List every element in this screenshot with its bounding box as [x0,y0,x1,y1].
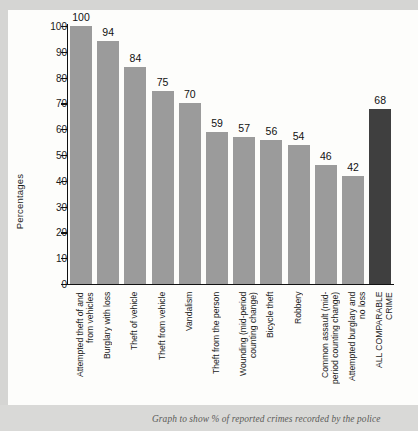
y-axis-line [67,24,68,285]
bar-value-label: 68 [374,94,386,106]
bar-value-label: 100 [72,11,90,23]
bar-value-label: 56 [266,125,278,137]
chart-page: Percentages 1009080706050403020100 10094… [0,0,418,431]
bar-value-label: 46 [320,150,332,162]
bar-column[interactable]: 42 [342,176,364,284]
x-axis-category-label: Burglary with loss [102,292,112,400]
bar-column[interactable]: 59 [206,132,228,284]
bar-column[interactable]: 68 [369,109,391,284]
bar-column[interactable]: 57 [233,137,255,284]
bar-column[interactable]: 84 [124,67,146,284]
bar-value-label: 75 [157,76,169,88]
x-axis-category-label: Bicycle theft [265,292,275,400]
bar-column[interactable]: 75 [152,91,174,285]
x-axis-category-label: Wounding (mid-period counting change) [238,292,258,400]
bar[interactable] [179,103,201,284]
x-axis-category-label: Common assault (mid- period counting cha… [320,292,340,400]
bar-chart: Percentages 1009080706050403020100 10094… [0,0,418,431]
bar-value-label: 94 [102,26,114,38]
bar[interactable] [288,145,310,284]
bar-value-label: 54 [293,130,305,142]
x-axis-category-label: Theft of vehicle [129,292,139,400]
bar-value-label: 42 [347,161,359,173]
bar-column[interactable]: 46 [315,165,337,284]
x-axis-category-label: Robbery [293,292,303,400]
bar-value-label: 57 [238,122,250,134]
bar-column[interactable]: 56 [260,140,282,284]
bar[interactable] [342,176,364,284]
bar-column[interactable]: 100 [70,26,92,284]
x-axis-category-label: Theft from vehicle [157,292,167,400]
bar-column[interactable]: 94 [97,41,119,284]
x-axis-category-label: Attempted theft of and from vehicles [75,292,95,400]
bar-value-label: 84 [130,52,142,64]
bar[interactable] [70,26,92,284]
x-axis-line [67,284,394,285]
bar-value-label: 59 [211,117,223,129]
bar-value-label: 70 [184,88,196,100]
x-axis-category-label: Vandalism [184,292,194,400]
bar[interactable] [152,91,174,285]
y-axis-title: Percentages [14,137,25,267]
bar[interactable] [97,41,119,284]
bar[interactable] [369,109,391,284]
x-axis-category-label: Theft from the person [211,292,221,400]
bar[interactable] [206,132,228,284]
figure-caption: Graph to show % of reported crimes recor… [152,414,381,424]
bar-column[interactable]: 70 [179,103,201,284]
bar[interactable] [260,140,282,284]
bar[interactable] [315,165,337,284]
bar[interactable] [233,137,255,284]
x-axis-category-label: ALL COMPARABLE CRIME [374,292,394,400]
bar-column[interactable]: 54 [288,145,310,284]
x-axis-category-label: Attempted burglary and no loss [347,292,367,400]
bar[interactable] [124,67,146,284]
